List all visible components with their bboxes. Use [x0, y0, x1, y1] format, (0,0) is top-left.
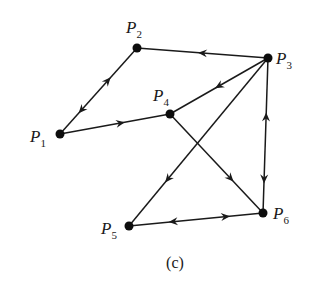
edge-p1-p4	[60, 114, 170, 134]
figure-caption: (c)	[166, 254, 184, 272]
labels-layer: P1P2P3P4P5P6	[29, 18, 292, 241]
edge-p5-p6	[129, 213, 263, 226]
node-p4	[166, 110, 175, 119]
directed-graph-diagram: P1P2P3P4P5P6 (c)	[0, 0, 311, 288]
nodes-layer	[56, 44, 273, 231]
node-p5	[125, 222, 134, 231]
node-label-p6: P6	[272, 204, 289, 226]
edge-p6-p3	[263, 58, 268, 213]
edge-p1-p2	[60, 48, 137, 134]
edge-p3-p5	[129, 58, 268, 226]
node-label-p2: P2	[125, 18, 142, 40]
node-p3	[264, 54, 273, 63]
node-label-p5: P5	[100, 219, 117, 241]
node-p6	[259, 209, 268, 218]
node-p1	[56, 130, 65, 139]
node-label-p1: P1	[29, 127, 46, 149]
edges-layer	[60, 48, 268, 226]
node-label-p3: P3	[275, 49, 292, 71]
arrowheads-layer	[79, 49, 270, 225]
node-label-p4: P4	[152, 86, 169, 108]
node-p2	[133, 44, 142, 53]
edge-p4-p6	[170, 114, 263, 213]
